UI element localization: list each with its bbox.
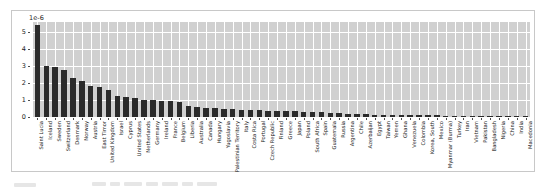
y-axis-tick-label: 3: [22, 63, 26, 70]
chart-figure: 1e-6 012345 Saint LuciaIcelandSwedenSwit…: [0, 0, 547, 196]
bar: [283, 111, 289, 117]
bar: [186, 106, 192, 117]
x-axis-tick-label: Czech Republic: [270, 121, 275, 161]
bar: [390, 115, 396, 117]
bar: [496, 116, 502, 117]
x-axis-tick-label: Nigeria: [501, 121, 506, 140]
x-axis-tick-label: South Africa: [315, 121, 320, 153]
x-axis-tick-mark: [428, 118, 429, 120]
x-axis-tick-mark: [481, 118, 482, 120]
x-axis-tick-mark: [242, 118, 243, 120]
bar: [292, 111, 298, 117]
x-axis-tick-label: Palestinian Territory: [235, 121, 240, 172]
bar: [239, 110, 245, 117]
x-axis-tick-label: Japan: [297, 121, 302, 135]
bar: [452, 116, 458, 117]
bar: [434, 115, 440, 117]
x-axis-tick-label: Liberia: [190, 121, 195, 139]
x-axis-tick-label: Germany: [155, 121, 160, 145]
bars-layer: [33, 22, 530, 117]
x-axis-tick-label: Yugoslavia: [226, 121, 231, 148]
x-axis-tick-mark: [135, 118, 136, 120]
x-axis-tick-mark: [277, 118, 278, 120]
bar: [487, 116, 493, 117]
x-axis-tick-label: Macedonia: [528, 121, 533, 149]
bar: [336, 113, 342, 117]
x-axis-tick-label: Cyprus: [128, 121, 133, 139]
bar: [159, 101, 165, 117]
bar: [106, 90, 112, 117]
y-axis-tick-mark: [28, 66, 30, 67]
x-axis-tick-mark: [295, 118, 296, 120]
x-axis-tick-mark: [64, 118, 65, 120]
x-axis-tick-label: Hungary: [217, 121, 222, 143]
x-axis-tick-mark: [126, 118, 127, 120]
x-axis-tick-label: Canada: [208, 121, 213, 141]
x-axis-tick-mark: [153, 118, 154, 120]
y-axis-tick-mark: [28, 49, 30, 50]
bar: [150, 100, 156, 117]
x-axis-tick-label: Norway: [84, 121, 89, 141]
bar: [52, 67, 58, 117]
x-axis-tick-label: Venezuela: [412, 121, 417, 148]
x-axis-tick-mark: [366, 118, 367, 120]
bar: [88, 86, 94, 117]
x-axis-tick-label: East Timor: [102, 121, 107, 149]
x-axis-tick-mark: [250, 118, 251, 120]
x-axis-tick-mark: [313, 118, 314, 120]
bar: [381, 115, 387, 117]
bar: [319, 112, 325, 117]
bar: [470, 116, 476, 117]
bar: [523, 116, 529, 117]
x-axis-tick-mark: [171, 118, 172, 120]
bar: [443, 116, 449, 117]
x-axis-tick-label: Netherlands: [146, 121, 151, 153]
x-axis-tick-label: Mexico: [439, 121, 444, 139]
x-axis-tick-label: Bangladesh: [492, 121, 497, 151]
bar: [363, 114, 369, 117]
bar: [407, 115, 413, 117]
bar: [274, 111, 280, 117]
x-axis-tick-label: Saint Lucia: [39, 121, 44, 149]
bar: [399, 115, 405, 117]
x-axis-tick-label: Yemen: [394, 121, 399, 138]
x-axis-tick-label: Chile: [359, 121, 364, 134]
x-axis-tick-label: Russia: [341, 121, 346, 138]
bar: [345, 114, 351, 117]
x-axis-tick-mark: [224, 118, 225, 120]
bar: [372, 115, 378, 117]
bar: [194, 107, 200, 117]
x-axis-tick-mark: [330, 118, 331, 120]
caption-artifact: [14, 182, 244, 189]
x-axis-tick-mark: [91, 118, 92, 120]
x-axis-tick-label: Greece: [288, 121, 293, 139]
bar: [221, 109, 227, 117]
x-axis-tick-label: China: [510, 121, 515, 136]
x-axis-tick-label: Guatemala: [332, 121, 337, 150]
x-axis-tick-label: Turkey: [457, 121, 462, 138]
x-axis-tick-label: Ghana: [403, 121, 408, 138]
x-axis-tick-mark: [357, 118, 358, 120]
x-axis-tick-label: Spain: [323, 121, 328, 136]
x-axis-tick-mark: [233, 118, 234, 120]
x-axis-tick-label: United Kingdom: [110, 121, 115, 163]
bar: [123, 97, 129, 117]
x-axis-tick-mark: [392, 118, 393, 120]
x-axis-tick-mark: [446, 118, 447, 120]
x-axis-tick-mark: [37, 118, 38, 120]
x-axis-tick-mark: [73, 118, 74, 120]
bar: [478, 116, 484, 117]
x-axis-tick-label: Pakistan: [483, 121, 488, 143]
y-axis-tick-label: 2: [22, 80, 26, 87]
bar: [177, 102, 183, 117]
x-axis-tick-mark: [472, 118, 473, 120]
bar: [115, 96, 121, 117]
x-axis-tick-label: Costa Rica: [252, 121, 257, 148]
x-axis-tick-mark: [82, 118, 83, 120]
x-axis-tick-label: Myanmar (Burma): [448, 121, 453, 168]
bar: [70, 78, 76, 117]
y-axis-tick-mark: [28, 83, 30, 84]
x-axis-tick-label: Egypt: [377, 121, 382, 136]
x-axis-tick-label: Vietnam: [474, 121, 479, 143]
x-axis-tick-mark: [455, 118, 456, 120]
